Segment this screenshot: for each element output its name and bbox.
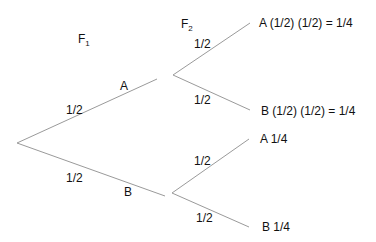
outcome-ab: B (1/2) (1/2) = 1/4: [261, 105, 355, 117]
probability-tree-diagram: F1 F2 A 1/2 1/2 B 1/2 A (1/2) (1/2) = 1/…: [0, 0, 376, 242]
branch-label-b: B: [124, 186, 132, 198]
branch-root-to-a: [17, 79, 157, 143]
branch-prob-bb: 1/2: [196, 212, 213, 224]
outcome-bb: B 1/4: [262, 221, 290, 233]
branch-prob-ab: 1/2: [194, 94, 211, 106]
branch-prob-b: 1/2: [66, 172, 83, 184]
generation-label-f2: F2: [181, 18, 193, 35]
outcome-aa: A (1/2) (1/2) = 1/4: [259, 17, 353, 29]
outcome-ba: A 1/4: [260, 133, 287, 145]
branch-root-to-b: [17, 143, 165, 196]
generation-label-f1: F1: [78, 33, 90, 50]
branch-a-to-b: [173, 75, 250, 110]
branch-prob-ba: 1/2: [194, 155, 211, 167]
tree-branches: [0, 0, 376, 242]
branch-prob-a: 1/2: [66, 104, 83, 116]
branch-prob-aa: 1/2: [194, 38, 211, 50]
branch-label-a: A: [120, 80, 128, 92]
